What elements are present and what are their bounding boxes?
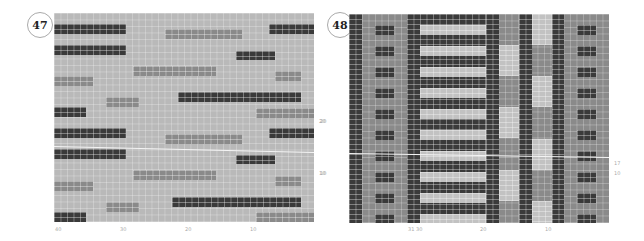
pattern-block — [499, 170, 519, 201]
pattern-block — [54, 149, 126, 159]
y-tick: 10 — [614, 170, 620, 176]
pattern-column — [552, 14, 564, 223]
y-tick: 10 — [320, 170, 326, 176]
pattern-block — [54, 181, 93, 191]
pattern-block — [375, 46, 394, 56]
pattern-block — [420, 214, 486, 223]
pattern-block — [236, 51, 275, 60]
pattern-block — [577, 130, 596, 140]
pattern-block — [256, 108, 314, 118]
pattern-block — [54, 76, 93, 86]
pattern-block — [420, 88, 486, 98]
x-tick: 30 — [120, 226, 126, 232]
pattern-block — [532, 201, 552, 223]
pattern-block — [54, 24, 126, 34]
x-tick: 40 — [55, 226, 61, 232]
pattern-block — [172, 197, 301, 207]
pattern-chart-48 — [349, 14, 609, 223]
pattern-block — [375, 130, 394, 140]
pattern-block — [375, 214, 394, 223]
pattern-block — [577, 67, 596, 77]
pattern-block — [577, 109, 596, 119]
pattern-block — [499, 107, 519, 138]
pattern-block — [375, 25, 394, 35]
pattern-block — [420, 25, 486, 35]
x-tick: 20 — [480, 226, 486, 232]
pattern-block — [54, 45, 126, 55]
pattern-block — [275, 71, 301, 81]
pattern-block — [577, 172, 596, 182]
pattern-block — [54, 128, 126, 138]
pattern-block — [375, 109, 394, 119]
pattern-block — [106, 202, 139, 212]
pattern-column — [349, 14, 362, 223]
pattern-block — [269, 24, 314, 34]
pattern-block — [178, 92, 301, 102]
pattern-block — [133, 170, 216, 180]
pattern-block — [420, 193, 486, 203]
pattern-block — [499, 45, 519, 76]
x-tick: 31 30 — [408, 226, 422, 232]
pattern-column — [407, 14, 420, 223]
pattern-block — [420, 130, 486, 140]
pattern-block — [375, 172, 394, 182]
pattern-chart-47 — [54, 13, 314, 222]
pattern-column — [519, 14, 532, 223]
pattern-block — [577, 46, 596, 56]
pattern-block — [577, 214, 596, 223]
pattern-block — [420, 172, 486, 182]
pattern-block — [133, 66, 216, 76]
x-tick: 10 — [545, 226, 551, 232]
pattern-block — [269, 128, 314, 138]
pattern-block — [375, 67, 394, 77]
pattern-block — [165, 29, 242, 39]
pattern-block — [165, 134, 242, 144]
pattern-block — [275, 176, 301, 186]
pattern-block — [532, 76, 552, 107]
pattern-block — [256, 212, 314, 222]
pattern-block — [375, 193, 394, 203]
pattern-block — [577, 88, 596, 98]
pattern-column — [486, 14, 499, 223]
pattern-block — [236, 155, 275, 164]
pattern-block — [577, 25, 596, 35]
pattern-block — [54, 107, 86, 117]
figure-number: 48 — [332, 19, 347, 32]
figure-number: 47 — [32, 19, 47, 32]
pattern-block — [532, 139, 552, 170]
x-tick: 10 — [250, 226, 256, 232]
pattern-block — [577, 193, 596, 203]
figure-number-badge: 47 — [27, 12, 53, 38]
pattern-block — [375, 88, 394, 98]
y-tick: 20 — [320, 118, 326, 124]
pattern-block — [420, 46, 486, 56]
y-tick: 17 — [614, 160, 620, 166]
x-tick: 20 — [185, 226, 191, 232]
pattern-block — [420, 67, 486, 77]
pattern-block — [532, 14, 552, 45]
pattern-block — [54, 212, 86, 222]
pattern-block — [420, 109, 486, 119]
pattern-block — [106, 97, 139, 107]
